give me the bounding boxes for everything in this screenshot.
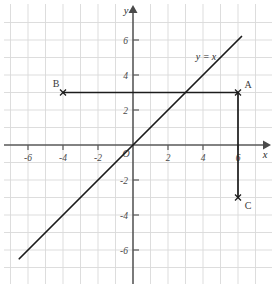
coordinate-graph-figure: -6 -4 -2 2 4 6 6 4 2 -2 -4 -6 x y O <box>0 0 276 287</box>
y-axis-arrow-icon <box>129 5 138 13</box>
x-tick-label: -4 <box>59 153 67 163</box>
y-tick-label: 6 <box>123 36 128 46</box>
equation-label-y-equals-x: y = x <box>195 51 217 62</box>
line-y-equals-x <box>19 37 241 259</box>
x-tick-label: -2 <box>94 153 102 163</box>
x-tick-label: -6 <box>24 153 32 163</box>
graph-canvas: -6 -4 -2 2 4 6 6 4 2 -2 -4 -6 x y O <box>0 0 276 287</box>
x-tick-label: 4 <box>201 153 206 163</box>
x-tick-label: 2 <box>166 153 171 163</box>
y-tick-label: 2 <box>123 106 128 116</box>
point-label-a: A <box>244 79 252 90</box>
y-tick-label: -4 <box>120 211 128 221</box>
point-label-b: B <box>53 78 60 89</box>
y-axis-label: y <box>123 5 129 16</box>
y-tick-label: -6 <box>120 246 128 256</box>
y-tick-label: 4 <box>123 71 128 81</box>
point-label-c: C <box>245 200 252 211</box>
x-axis-label: x <box>262 149 268 160</box>
y-tick-label: -2 <box>120 176 128 186</box>
